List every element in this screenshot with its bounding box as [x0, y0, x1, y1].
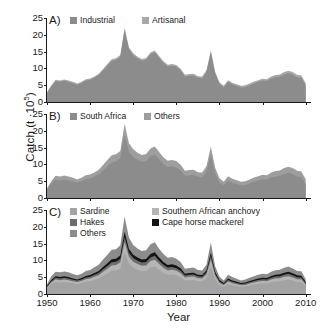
legend-swatch-icon: [152, 219, 159, 226]
legend-label: Cape horse mackerel: [162, 218, 244, 227]
legend-item: Others: [70, 229, 106, 238]
legend-item: Cape horse mackerel: [152, 218, 244, 227]
legend-swatch-icon: [70, 113, 77, 120]
x-tick-mark: [133, 198, 134, 201]
y-tick-label: 15: [32, 47, 43, 57]
panel-tag: B): [49, 111, 61, 123]
panel-a: 2520151050A)IndustrialArtisanal: [47, 18, 310, 102]
x-tick-mark: [47, 198, 48, 201]
y-tick-label: 25: [32, 205, 43, 215]
legend-item: Southern African anchovy: [152, 207, 260, 216]
x-tick-label: 2010: [295, 298, 316, 308]
x-tick-mark: [219, 198, 220, 201]
x-tick-label: 1980: [166, 298, 187, 308]
legend-swatch-icon: [70, 208, 77, 215]
legend-label: Artisanal: [152, 16, 185, 25]
figure: Catch (t ·105) 2520151050A)IndustrialArt…: [0, 0, 320, 330]
legend-item: Sardine: [70, 207, 110, 216]
y-tick-label: 15: [32, 143, 43, 153]
x-axis-label: Year: [47, 311, 310, 323]
y-tick-label: 20: [32, 222, 43, 232]
legend-label: Others: [154, 112, 180, 121]
y-tick-label: 25: [32, 13, 43, 23]
x-tick-mark: [176, 102, 177, 105]
legend-swatch-icon: [144, 113, 151, 120]
x-tick-mark: [133, 102, 134, 105]
legend-item: Hakes: [70, 218, 104, 227]
y-tick-label: 10: [32, 160, 43, 170]
legend-swatch-icon: [70, 17, 77, 24]
y-axis-label-exponent: 5: [22, 96, 31, 100]
legend-item: Artisanal: [142, 16, 185, 25]
x-tick-mark: [263, 198, 264, 201]
legend-item: South Africa: [70, 112, 126, 121]
legend-swatch-icon: [70, 230, 77, 237]
legend-label: Southern African anchovy: [162, 207, 260, 216]
y-axis-label-tail: ): [24, 92, 36, 96]
panel-b: 2520151050B)South AfricaOthers: [47, 114, 310, 198]
legend-label: Sardine: [80, 207, 110, 216]
y-tick-label: 0: [38, 97, 43, 107]
x-tick-label: 1960: [80, 298, 101, 308]
legend-item: Industrial: [70, 16, 115, 25]
x-axis-line: [46, 198, 311, 199]
y-tick-label: 25: [32, 109, 43, 119]
legend-label: Hakes: [80, 218, 104, 227]
legend-swatch-icon: [152, 208, 159, 215]
x-tick-label: 1990: [209, 298, 230, 308]
x-tick-mark: [219, 102, 220, 105]
y-tick-label: 5: [38, 272, 43, 282]
y-tick-label: 0: [38, 193, 43, 203]
legend-swatch-icon: [142, 17, 149, 24]
x-tick-mark: [306, 102, 307, 105]
legend-label: South Africa: [80, 112, 126, 121]
legend-label: Industrial: [80, 16, 115, 25]
y-tick-label: 5: [38, 176, 43, 186]
y-tick-label: 5: [38, 80, 43, 90]
x-axis-line: [46, 102, 311, 103]
x-tick-label: 1950: [36, 298, 57, 308]
x-tick-mark: [90, 198, 91, 201]
x-tick-mark: [263, 102, 264, 105]
plot-area: [47, 114, 310, 198]
y-tick-label: 20: [32, 126, 43, 136]
x-tick-mark: [90, 102, 91, 105]
y-tick-label: 20: [32, 30, 43, 40]
legend-label: Others: [80, 229, 106, 238]
x-tick-mark: [306, 198, 307, 201]
x-tick-label: 1970: [123, 298, 144, 308]
panel-tag: A): [49, 15, 61, 27]
x-tick-label: 2000: [252, 298, 273, 308]
plot-area: [47, 18, 310, 102]
panel-tag: C): [49, 207, 61, 219]
panel-c: 25201510501950196019701980199020002010C)…: [47, 210, 310, 294]
x-tick-mark: [176, 198, 177, 201]
y-tick-label: 10: [32, 64, 43, 74]
legend-swatch-icon: [70, 219, 77, 226]
x-tick-mark: [47, 102, 48, 105]
x-axis-line: [46, 294, 311, 295]
y-tick-label: 10: [32, 256, 43, 266]
legend-item: Others: [144, 112, 180, 121]
y-tick-label: 15: [32, 239, 43, 249]
